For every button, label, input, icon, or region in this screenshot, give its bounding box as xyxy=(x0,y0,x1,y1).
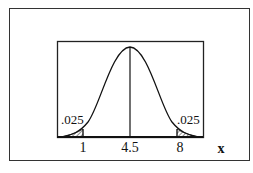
x-tick-4-5: 4.5 xyxy=(121,140,139,155)
x-axis-label: x xyxy=(218,141,225,156)
x-tick-8: 8 xyxy=(177,140,184,155)
normal-distribution-chart: .025 .025 1 4.5 8 x xyxy=(0,0,253,173)
right-tail-label: .025 xyxy=(177,112,200,127)
x-tick-1: 1 xyxy=(80,140,87,155)
left-tail-label: .025 xyxy=(61,112,84,127)
